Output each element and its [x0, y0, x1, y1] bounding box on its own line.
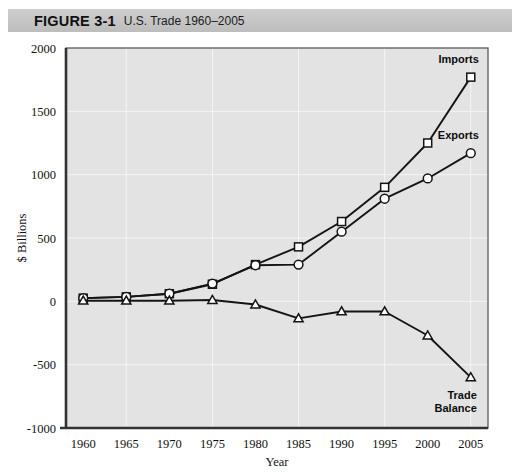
y-tick-label: 500 — [37, 232, 56, 246]
x-tick-label: 1975 — [200, 437, 225, 451]
y-axis-ticks: 2000150010005000-500-1000 — [27, 42, 56, 436]
data-point-marker-circle — [466, 149, 475, 158]
x-tick-label: 1970 — [157, 437, 182, 451]
figure-number: FIGURE 3-1 — [34, 13, 116, 29]
data-point-marker-square — [338, 218, 346, 226]
x-tick-label: 1960 — [71, 437, 96, 451]
figure-container: FIGURE 3-1 U.S. Trade 1960–2005 20001500… — [0, 0, 520, 472]
data-point-marker-square — [424, 139, 432, 147]
figure-caption: U.S. Trade 1960–2005 — [124, 14, 245, 28]
x-tick-label: 1985 — [286, 437, 311, 451]
x-axis-title: Year — [265, 455, 289, 469]
x-tick-label: 1995 — [372, 437, 397, 451]
x-tick-label: 1990 — [329, 437, 354, 451]
data-point-marker-square — [467, 73, 475, 81]
x-axis-ticks: 1960196519701975198019851990199520002005 — [71, 437, 484, 451]
y-tick-label: 0 — [50, 295, 56, 309]
y-tick-label: 2000 — [31, 42, 56, 56]
series-label-exports: Exports — [438, 129, 479, 141]
x-tick-label: 2000 — [415, 437, 440, 451]
data-point-marker-circle — [251, 261, 260, 270]
data-point-marker-circle — [380, 194, 389, 203]
figure-title-bar: FIGURE 3-1 U.S. Trade 1960–2005 — [8, 9, 512, 32]
series-label-trade-balance-line2: Balance — [435, 402, 477, 414]
data-point-marker-square — [295, 243, 303, 251]
trade-line-chart: 2000150010005000-500-1000 19601965197019… — [0, 32, 520, 472]
chart-area: 2000150010005000-500-1000 19601965197019… — [0, 32, 520, 472]
y-axis-title: $ Billions — [15, 213, 29, 262]
y-tick-label: -500 — [33, 358, 56, 372]
y-tick-label: -1000 — [27, 422, 56, 436]
series-label-imports: Imports — [438, 53, 478, 65]
data-point-marker-circle — [337, 227, 346, 236]
x-tick-label: 2005 — [458, 437, 483, 451]
data-point-marker-circle — [423, 174, 432, 183]
x-tick-label: 1980 — [243, 437, 268, 451]
y-tick-label: 1500 — [31, 105, 56, 119]
data-point-marker-square — [381, 183, 389, 191]
y-tick-label: 1000 — [31, 168, 56, 182]
data-point-marker-circle — [294, 260, 303, 269]
series-label-trade-balance-line1: Trade — [447, 389, 476, 401]
data-point-marker-circle — [208, 279, 217, 288]
x-tick-label: 1965 — [114, 437, 139, 451]
